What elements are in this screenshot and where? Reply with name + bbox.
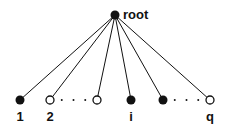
leaf-node-open xyxy=(46,96,54,104)
ellipsis-dot xyxy=(61,99,63,101)
root-node xyxy=(111,11,120,20)
leaf-node-open xyxy=(206,96,214,104)
leaf-node-filled xyxy=(159,96,168,105)
leaf-label-cq: q xyxy=(206,109,214,124)
leaf-label-c1: 1 xyxy=(16,109,23,124)
leaf-label-c2: 2 xyxy=(46,109,53,124)
tree-diagram: root12iq xyxy=(0,0,228,132)
tree-svg: root12iq xyxy=(0,0,228,132)
edge-root-to-c1 xyxy=(20,15,115,100)
edge-root-to-c5 xyxy=(115,15,163,100)
ellipsis-dot xyxy=(73,99,75,101)
ellipsis-dot xyxy=(186,99,188,101)
leaf-node-filled xyxy=(127,96,136,105)
edge-root-to-c2 xyxy=(50,15,115,100)
leaf-node-open xyxy=(93,96,101,104)
leaf-label-ci: i xyxy=(129,109,133,124)
edge-root-to-c3 xyxy=(97,15,115,100)
edge-root-to-cq xyxy=(115,15,210,100)
root-label: root xyxy=(123,7,149,22)
ellipsis-dot xyxy=(197,99,199,101)
ellipsis-dot xyxy=(84,99,86,101)
ellipsis-dot xyxy=(174,99,176,101)
leaf-node-filled xyxy=(16,96,25,105)
